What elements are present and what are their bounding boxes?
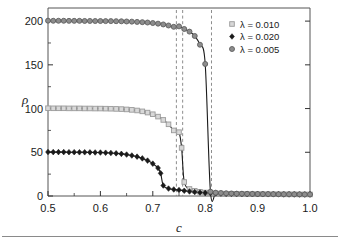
data-point-lambda-0.010: [166, 122, 171, 127]
data-point-lambda-0.010: [114, 107, 119, 112]
data-point-lambda-0.020: [135, 154, 140, 160]
data-point-lambda-0.005: [156, 21, 161, 26]
data-point-lambda-0.005: [224, 191, 229, 196]
data-point-lambda-0.010: [82, 106, 87, 111]
data-point-lambda-0.010: [171, 128, 176, 133]
data-point-lambda-0.010: [130, 108, 135, 113]
data-point-lambda-0.005: [61, 18, 66, 23]
data-point-lambda-0.005: [302, 192, 307, 197]
data-point-lambda-0.010: [179, 146, 184, 151]
data-point-lambda-0.010: [161, 118, 166, 123]
legend-marker-lambda-0.010: [230, 22, 235, 27]
y-tick-label: 0: [37, 190, 43, 202]
data-point-lambda-0.010: [98, 106, 103, 111]
data-point-lambda-0.020: [72, 149, 77, 155]
data-point-lambda-0.005: [239, 191, 244, 196]
data-point-lambda-0.005: [77, 18, 82, 23]
data-point-lambda-0.005: [213, 190, 218, 195]
data-point-lambda-0.005: [187, 29, 192, 34]
data-point-lambda-0.010: [109, 106, 114, 111]
data-point-lambda-0.020: [88, 150, 93, 156]
data-point-lambda-0.005: [271, 192, 276, 197]
x-axis-label: c: [176, 220, 182, 235]
data-point-lambda-0.020: [56, 149, 61, 155]
data-point-lambda-0.005: [93, 19, 98, 24]
data-point-lambda-0.005: [114, 19, 119, 24]
data-point-lambda-0.020: [77, 149, 82, 155]
data-point-lambda-0.010: [124, 107, 129, 112]
data-point-lambda-0.020: [119, 151, 124, 157]
chart-legend: λ = 0.010λ = 0.020λ = 0.005: [230, 19, 280, 55]
data-point-lambda-0.010: [119, 107, 124, 112]
data-point-lambda-0.020: [171, 187, 176, 193]
data-point-lambda-0.020: [177, 187, 182, 193]
data-point-lambda-0.010: [177, 130, 182, 135]
data-point-lambda-0.005: [135, 19, 140, 24]
data-point-lambda-0.005: [287, 192, 292, 197]
data-point-lambda-0.005: [255, 191, 260, 196]
data-point-lambda-0.020: [51, 149, 56, 155]
data-point-lambda-0.010: [88, 106, 93, 111]
data-point-lambda-0.005: [208, 189, 213, 194]
x-tick-label: 0.6: [93, 202, 108, 214]
data-point-lambda-0.005: [87, 18, 92, 23]
data-point-lambda-0.005: [218, 191, 223, 196]
y-axis-label: ρ: [21, 92, 28, 107]
data-point-lambda-0.010: [67, 106, 72, 111]
data-point-lambda-0.005: [66, 18, 71, 23]
data-point-lambda-0.010: [145, 110, 150, 115]
data-point-lambda-0.020: [158, 170, 163, 176]
legend-marker-lambda-0.020: [230, 34, 235, 40]
data-point-lambda-0.005: [140, 20, 145, 25]
legend-label-lambda-0.010: λ = 0.010: [240, 19, 279, 30]
data-point-lambda-0.010: [182, 180, 187, 185]
data-point-lambda-0.020: [145, 158, 150, 164]
legend-label-lambda-0.005: λ = 0.005: [240, 44, 279, 55]
data-point-lambda-0.005: [98, 19, 103, 24]
x-tick-label: 0.7: [145, 202, 160, 214]
data-point-lambda-0.005: [72, 18, 77, 23]
data-point-lambda-0.010: [46, 106, 51, 111]
data-point-lambda-0.020: [98, 150, 103, 156]
y-tick-label: 150: [25, 59, 43, 71]
data-point-lambda-0.020: [124, 152, 129, 158]
data-point-lambda-0.005: [182, 26, 187, 31]
data-point-lambda-0.005: [292, 192, 297, 197]
data-point-lambda-0.005: [250, 191, 255, 196]
data-point-lambda-0.005: [46, 18, 51, 23]
data-point-lambda-0.010: [72, 106, 77, 111]
x-tick-label: 0.9: [250, 202, 265, 214]
data-point-lambda-0.005: [245, 191, 250, 196]
data-point-lambda-0.020: [140, 156, 145, 162]
data-point-lambda-0.005: [56, 18, 61, 23]
data-point-lambda-0.005: [150, 21, 155, 26]
data-point-lambda-0.005: [297, 192, 302, 197]
data-point-lambda-0.020: [182, 188, 187, 194]
data-point-lambda-0.005: [177, 24, 182, 29]
data-point-lambda-0.005: [276, 192, 281, 197]
data-point-lambda-0.010: [77, 106, 82, 111]
data-point-lambda-0.005: [203, 61, 208, 66]
data-point-lambda-0.005: [103, 19, 108, 24]
data-point-lambda-0.010: [103, 106, 108, 111]
data-point-lambda-0.005: [108, 19, 113, 24]
x-tick-label: 1.0: [302, 202, 317, 214]
data-point-lambda-0.005: [171, 24, 176, 29]
data-point-lambda-0.020: [67, 149, 72, 155]
data-point-lambda-0.005: [51, 18, 56, 23]
x-tick-label: 0.5: [40, 202, 55, 214]
legend-marker-lambda-0.005: [230, 47, 235, 52]
x-tick-label: 0.8: [198, 202, 213, 214]
data-point-lambda-0.010: [51, 106, 56, 111]
data-point-lambda-0.005: [166, 23, 171, 28]
data-point-lambda-0.005: [119, 19, 124, 24]
data-point-lambda-0.010: [151, 112, 156, 117]
fit-curve-lambda-0.010: [48, 108, 310, 194]
data-point-lambda-0.020: [46, 149, 51, 155]
data-point-lambda-0.020: [150, 161, 155, 167]
data-point-lambda-0.005: [308, 192, 313, 197]
data-point-lambda-0.010: [156, 114, 161, 119]
data-point-lambda-0.020: [108, 150, 113, 156]
data-point-lambda-0.020: [166, 186, 171, 192]
data-point-lambda-0.020: [61, 149, 66, 155]
